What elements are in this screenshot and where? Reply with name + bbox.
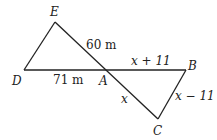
segment-label-AC: x: [121, 92, 128, 106]
segment-label-DA: 71 m: [53, 73, 84, 87]
triangle-diagram: E D A B C 60 m 71 m x + 11 x x − 11: [0, 0, 217, 140]
point-label-C: C: [153, 124, 162, 138]
point-label-D: D: [11, 74, 22, 88]
segment-label-AB: x + 11: [131, 54, 171, 68]
point-label-E: E: [49, 5, 59, 19]
segment-label-EA: 60 m: [86, 38, 117, 52]
point-label-B: B: [187, 59, 197, 73]
segment-label-BC: x − 11: [175, 89, 215, 103]
point-label-A: A: [98, 74, 108, 88]
segment-DE: [24, 22, 55, 70]
